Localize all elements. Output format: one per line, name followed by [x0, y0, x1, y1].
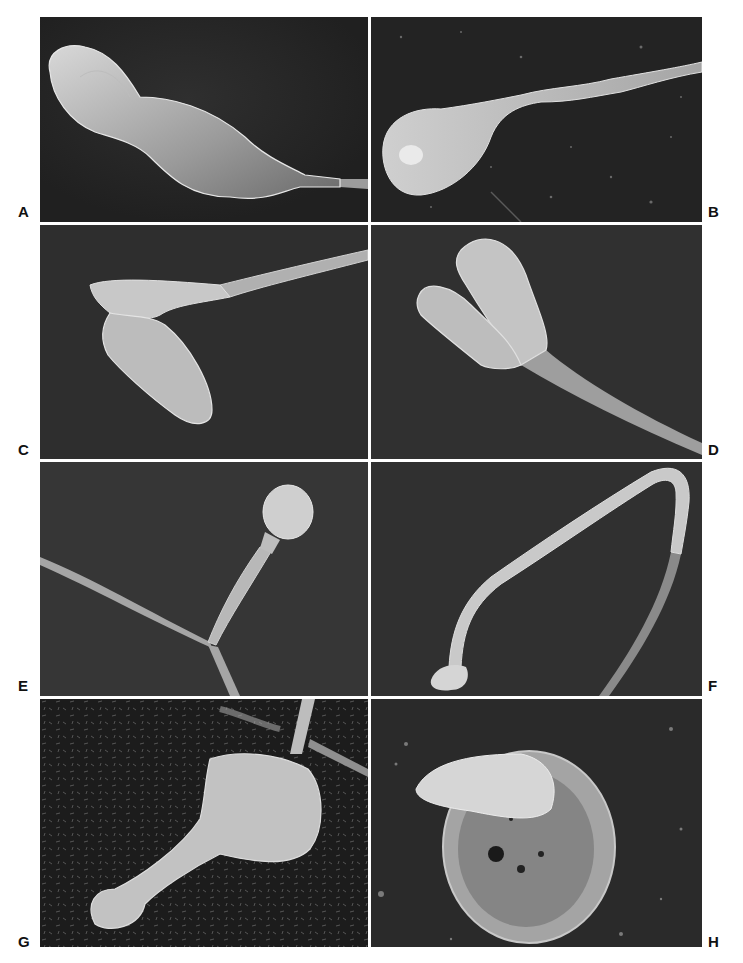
panel-c	[40, 225, 368, 459]
panel-e	[40, 462, 368, 696]
panel-b	[371, 17, 702, 222]
panel-g	[40, 699, 368, 947]
panel-h-image	[371, 699, 702, 947]
panel-h	[371, 699, 702, 947]
panel-f-image	[371, 462, 702, 696]
panel-label-h: H	[708, 933, 719, 950]
panel-d	[371, 225, 702, 459]
panel-label-d: D	[708, 441, 719, 458]
panel-b-image	[371, 17, 702, 222]
panel-f	[371, 462, 702, 696]
panel-e-image	[40, 462, 368, 696]
panel-d-image	[371, 225, 702, 459]
panel-label-b: B	[708, 203, 719, 220]
panel-label-a: A	[18, 203, 29, 220]
panel-a-image	[40, 17, 368, 222]
panel-g-image	[40, 699, 368, 947]
panel-a	[40, 17, 368, 222]
panel-label-g: G	[18, 933, 30, 950]
panel-label-e: E	[18, 677, 28, 694]
micrograph-plate: A B C	[40, 17, 702, 947]
panel-label-c: C	[18, 441, 29, 458]
panel-c-image	[40, 225, 368, 459]
panel-label-f: F	[708, 677, 717, 694]
